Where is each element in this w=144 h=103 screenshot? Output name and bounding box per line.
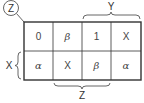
bottom-brace-label: Z bbox=[79, 90, 85, 101]
cell-r2-c2: X bbox=[64, 60, 71, 71]
corner-label-text: Z bbox=[8, 3, 14, 14]
cell-r2-c3: β bbox=[93, 60, 100, 71]
bottom-brace-z: Z bbox=[54, 83, 110, 101]
left-brace-x: X bbox=[6, 52, 21, 79]
cell-r1-c2: β bbox=[64, 31, 71, 42]
cell-r2-c4: α bbox=[123, 60, 130, 71]
top-brace-label: Y bbox=[108, 1, 115, 12]
corner-label: Z bbox=[4, 1, 25, 23]
top-brace-y: Y bbox=[83, 1, 140, 19]
cell-r2-c1: α bbox=[35, 60, 42, 71]
cell-r1-c1: 0 bbox=[36, 31, 42, 42]
cell-r1-c3: 1 bbox=[94, 31, 100, 42]
karnaugh-map-diagram: Z 0 β 1 X α X β α Y Z X bbox=[0, 0, 144, 103]
cell-r1-c4: X bbox=[123, 31, 130, 42]
left-brace-label: X bbox=[6, 60, 13, 71]
